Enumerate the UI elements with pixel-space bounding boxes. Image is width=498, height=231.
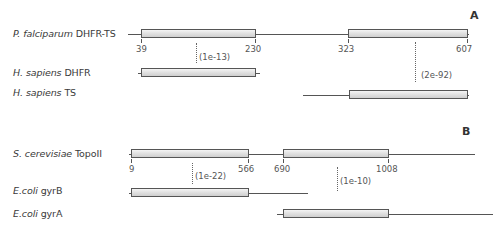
tick-323 <box>348 39 349 43</box>
tick-690 <box>283 159 284 163</box>
species-name: E.coli <box>13 185 38 196</box>
evalue-label: (1e-10) <box>340 176 371 186</box>
evalue-label: (1e-22) <box>195 171 226 181</box>
evalue-label: (2e-92) <box>421 70 452 80</box>
position-label: 690 <box>274 164 290 174</box>
domain-box-gyra-like <box>283 149 389 158</box>
domain-box-dhfr <box>141 68 256 77</box>
position-label: 607 <box>456 44 472 54</box>
position-label: 230 <box>245 44 261 54</box>
protein-name: DHFR-TS <box>76 28 116 39</box>
protein-name: gyrA <box>41 208 63 219</box>
species-name: H. sapiens <box>13 87 61 98</box>
protein-name: TS <box>64 87 76 98</box>
position-label: 566 <box>238 164 254 174</box>
row-label-hs-dhfr: H. sapiens DHFR <box>13 67 91 78</box>
row-label-hs-ts: H. sapiens TS <box>13 87 76 98</box>
protein-name: gyrB <box>41 185 63 196</box>
tick-1008 <box>388 159 389 163</box>
row-label-ec-gyra: E.coli gyrA <box>13 208 62 219</box>
tick-230 <box>255 39 256 43</box>
tick-607 <box>467 39 468 43</box>
row-label-pf-dhfr-ts: P. falciparum DHFR-TS <box>13 28 116 39</box>
tick-9 <box>131 159 132 163</box>
evalue-label: (1e-13) <box>199 52 230 62</box>
tick-39 <box>141 39 142 43</box>
domain-box-ts <box>348 29 468 38</box>
tick-566 <box>248 159 249 163</box>
domain-box-ts <box>349 90 468 99</box>
position-label: 1008 <box>376 164 398 174</box>
species-name: H. sapiens <box>13 67 61 78</box>
dotted-connector <box>192 163 193 184</box>
domain-box-dhfr <box>141 29 256 38</box>
species-name: S. cerevisiae <box>13 148 72 159</box>
species-name: E.coli <box>13 208 38 219</box>
species-name: P. falciparum <box>13 28 73 39</box>
domain-box-gyrb <box>131 188 249 197</box>
dotted-connector <box>196 43 197 63</box>
position-label: 39 <box>136 44 147 54</box>
row-label-ec-gyrb: E.coli gyrB <box>13 185 62 196</box>
domain-box-gyra <box>283 209 389 218</box>
position-label: 9 <box>129 164 134 174</box>
protein-name: TopoII <box>75 148 102 159</box>
protein-name: DHFR <box>64 67 90 78</box>
panel-letter-a: A <box>470 9 479 22</box>
dotted-connector <box>415 42 416 82</box>
domain-box-gyrb-like <box>131 149 249 158</box>
panel-letter-b: B <box>462 125 470 138</box>
position-label: 323 <box>338 44 354 54</box>
row-label-sc-topoii: S. cerevisiae TopoII <box>13 148 102 159</box>
dotted-connector <box>337 167 338 191</box>
